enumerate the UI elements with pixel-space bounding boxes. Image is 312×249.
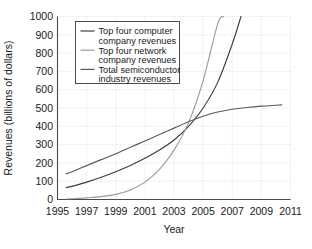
x-tick-label: 2001 [133,205,157,217]
y-tick-label: 0 [47,193,53,205]
y-axis-title-text: Revenues (billions of dollars) [2,41,14,176]
x-tick-label: 2011 [279,205,302,217]
x-axis-title-text: Year [163,223,185,235]
y-tick-label: 700 [35,65,53,77]
y-tick-label: 300 [35,138,53,150]
chart-legend: Top four computercompany revenuesTop fou… [76,22,181,85]
legend-label-2-line2: industry revenues [99,74,172,84]
y-axis-title: Revenues (billions of dollars) [2,41,14,176]
x-tick-label: 2003 [162,205,186,217]
x-tick-label: 1995 [46,205,70,217]
y-axis-tick-labels: 01002003004005006007008009001000 [30,10,54,205]
legend-label-1-line2: company revenues [99,55,177,65]
chart-canvas: 01002003004005006007008009001000 1995199… [0,0,312,249]
y-tick-label: 600 [35,83,53,95]
x-tick-label: 2005 [191,205,215,217]
x-tick-label: 1999 [104,205,128,217]
x-tick-label: 2007 [221,205,245,217]
legend-label-0-line2: company revenues [99,36,177,46]
x-tick-label: 2009 [250,205,274,217]
revenue-line-chart: 01002003004005006007008009001000 1995199… [0,0,312,249]
y-tick-label: 900 [35,29,53,41]
y-tick-label: 1000 [30,10,54,22]
y-tick-label: 800 [35,47,53,59]
x-axis-tick-labels: 199519971999200120032005200720092011 [46,205,302,217]
y-tick-label: 400 [35,120,53,132]
x-axis-title: Year [163,223,185,235]
x-tick-label: 1997 [75,205,99,217]
y-tick-label: 200 [35,157,53,169]
y-tick-label: 100 [35,175,53,187]
y-tick-label: 500 [35,102,53,114]
